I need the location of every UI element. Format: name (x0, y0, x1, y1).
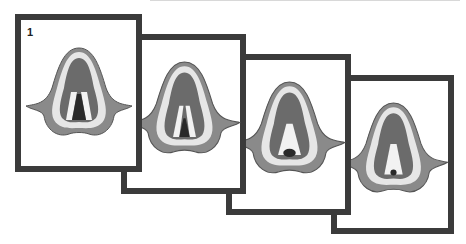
panel-1: 1 (15, 14, 142, 172)
larynx-illustration (232, 80, 347, 180)
larynx-illustration (127, 60, 242, 160)
panel-label: 1 (27, 26, 33, 38)
larynx-illustration (337, 101, 450, 199)
top-rule (150, 0, 460, 1)
larynx-illustration (24, 46, 134, 142)
